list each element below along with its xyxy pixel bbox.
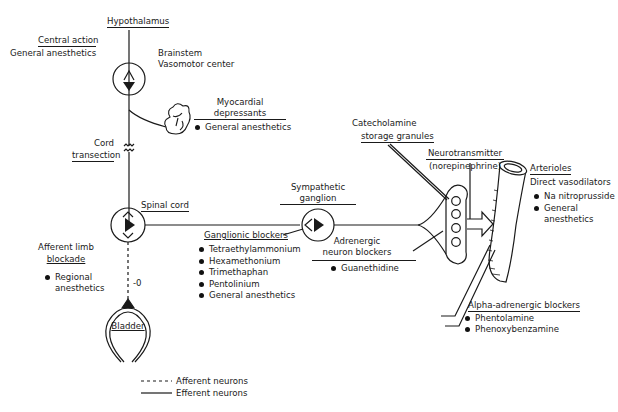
release-arrow [467, 212, 493, 236]
transection-mark-top [124, 144, 134, 146]
vasodilator: General [533, 203, 615, 215]
central-action-agent: General anesthetics [10, 48, 96, 59]
ganglionic-blockers-list: Tetraethylammonium Hexamethonium Trimeth… [198, 244, 301, 302]
vasomotor-center-label: Vasomotor center [158, 59, 234, 70]
adrenergic-divider [312, 260, 416, 261]
vasodilator-line2: anesthetics [544, 214, 594, 225]
alpha-blocker: Phentolamine [464, 313, 559, 324]
ganglionic-blocker: Tetraethylammonium [198, 244, 301, 256]
norepinephrine-label: (norepinephrine) [426, 161, 504, 172]
heart-icon [165, 104, 190, 134]
arterioles-title: Arterioles [530, 163, 571, 175]
adrenergic-blocker: Guanethidine [330, 263, 399, 275]
neurotransmitter-label: Neurotransmitter [426, 148, 504, 160]
adrenergic-label-1: Adrenergic [312, 236, 402, 247]
ganglionic-blocker: Pentolinium [198, 279, 301, 291]
afferent-agents-list: Regional [44, 272, 92, 284]
myocardial-title-2: depressants [194, 108, 286, 120]
brainstem-triangle [123, 82, 135, 91]
vasodilators-list: Na nitroprusside General [533, 191, 615, 214]
ganglionic-blocker: General anesthetics [198, 290, 301, 302]
ganglion-label: ganglion [280, 193, 356, 205]
myocardial-title-1: Myocardial [194, 97, 286, 108]
granule-1 [452, 197, 461, 206]
bladder-signal: -0 [133, 278, 142, 289]
direct-vasodilators-label: Direct vasodilators [530, 177, 611, 188]
catecholamine-label: Catecholamine [352, 118, 417, 129]
granule-2 [452, 210, 461, 219]
brainstem-label: Brainstem [158, 48, 202, 59]
storage-granules-label: storage granules [361, 131, 434, 143]
ganglionic-blocker: Hexamethonium [198, 256, 301, 268]
alpha-blocker: Phenoxybenzamine [464, 324, 559, 335]
afferent-agent-line1: Regional [44, 272, 92, 284]
granule-4 [452, 238, 461, 247]
adrenergic-label-2: neuron blockers [312, 247, 402, 258]
ganglionic-blockers-title-text: Ganglionic blockers [204, 230, 288, 240]
diagram-canvas [0, 0, 618, 412]
legend-afferent: Afferent neurons [176, 376, 248, 387]
vasodilator: Na nitroprusside [533, 191, 615, 203]
transection-mark-bottom [124, 149, 134, 151]
afferent-limb-label: Afferent limb [36, 242, 96, 253]
hypothalamus-label: Hypothalamus [107, 16, 169, 28]
sympathetic-label: Sympathetic [280, 182, 356, 193]
cord-label: Cord [60, 138, 114, 149]
bladder-outline [106, 308, 150, 362]
alpha-blockers-title: Alpha-adrenergic blockers [468, 300, 580, 312]
ganglionic-blockers-title: Ganglionic blockers [204, 230, 288, 241]
alpha-blockers-list: Phentolamine Phenoxybenzamine [464, 313, 559, 334]
ganglion-triangle [314, 218, 324, 232]
legend-efferent: Efferent neurons [176, 388, 248, 399]
adrenergic-blockers-list: Guanethidine [330, 263, 399, 275]
granule-3 [452, 224, 461, 233]
spinal-cord-label: Spinal cord [141, 200, 189, 212]
afferent-agent-line2: anesthetics [55, 283, 105, 294]
myocardial-agents-list: General anesthetics [194, 122, 291, 134]
transection-label: transection [72, 150, 114, 162]
myocardial-agent: General anesthetics [194, 122, 291, 134]
spinal-triangle [125, 218, 135, 232]
bladder-label: Bladder [108, 321, 148, 332]
ganglionic-blocker: Trimethaphan [198, 267, 301, 279]
blockade-label: blockade [36, 254, 96, 265]
central-action-title: Central action [38, 35, 96, 47]
arteriole-vessel [489, 165, 526, 282]
